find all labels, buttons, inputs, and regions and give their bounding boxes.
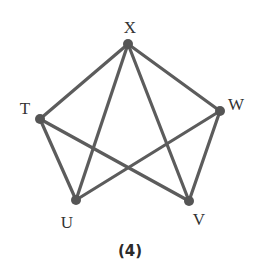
node-x (123, 39, 133, 49)
graph-diagram: XTWUV (4) (0, 0, 257, 280)
node-label-t: T (20, 99, 31, 118)
node-label-u: U (61, 213, 73, 232)
node-label-w: W (228, 95, 245, 114)
figure-caption: (4) (118, 242, 142, 260)
node-label-x: X (124, 18, 136, 37)
node-t (35, 114, 45, 124)
edge-w-u (76, 111, 220, 200)
node-label-v: V (193, 210, 206, 229)
edges-group (40, 44, 220, 201)
node-v (184, 196, 194, 206)
edge-w-v (189, 111, 220, 201)
node-u (71, 195, 81, 205)
node-w (215, 106, 225, 116)
edge-t-v (40, 119, 189, 201)
edge-t-u (40, 119, 76, 200)
